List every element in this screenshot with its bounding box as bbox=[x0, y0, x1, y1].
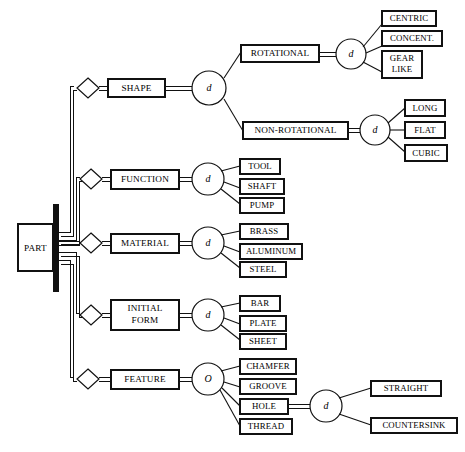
er-diagram-svg: PART SHAPE bbox=[0, 0, 465, 452]
specialization-initial-form: INITIAL FORM d bbox=[80, 299, 224, 331]
hole-label: HOLE bbox=[252, 401, 276, 411]
tool-label: TOOL bbox=[248, 161, 272, 171]
steel-label: STEEL bbox=[250, 264, 277, 274]
feature-specialization-diamond bbox=[77, 369, 99, 389]
link-non-rotational-circle bbox=[348, 128, 360, 132]
groove-label: GROOVE bbox=[249, 381, 286, 391]
thread-label: THREAD bbox=[248, 421, 284, 431]
shape-entity-label: SHAPE bbox=[121, 83, 151, 93]
rotational-label: ROTATIONAL bbox=[251, 48, 310, 58]
diagram-canvas: PART SHAPE bbox=[0, 0, 465, 452]
link-material-circle bbox=[179, 241, 192, 245]
link-diamond-feature-box bbox=[99, 377, 111, 381]
leaf-brass: BRASS bbox=[240, 224, 288, 239]
non-rotational-label: NON-ROTATIONAL bbox=[255, 125, 337, 135]
entity-part: PART bbox=[18, 224, 53, 271]
link-hole-circle bbox=[288, 404, 310, 408]
link-diamond-shape-box bbox=[99, 86, 108, 90]
link-hole-leaves bbox=[339, 388, 371, 425]
sheet-label: SHEET bbox=[249, 336, 277, 346]
function-entity-label: FUNCTION bbox=[121, 174, 169, 184]
specialization-function: FUNCTION d bbox=[80, 163, 224, 195]
leaf-sheet: SHEET bbox=[240, 334, 286, 349]
link-diamond-material-box bbox=[102, 241, 111, 245]
leaf-pump: PUMP bbox=[240, 198, 284, 213]
total-participation-bar bbox=[55, 204, 58, 292]
link-initial-form-circle bbox=[179, 313, 192, 317]
gear-like-label-line1: GEAR bbox=[390, 53, 414, 63]
link-shape-subclasses bbox=[224, 52, 243, 131]
link-initial-form-leaves bbox=[221, 303, 240, 340]
link-function-circle bbox=[179, 177, 192, 181]
concent-label: CONCENT. bbox=[390, 33, 434, 43]
leaf-concentric: CONCENT. bbox=[382, 31, 442, 46]
flat-label: FLAT bbox=[414, 125, 436, 135]
leaf-aluminum: ALUMINUM bbox=[240, 244, 302, 259]
part-entity-label: PART bbox=[24, 243, 47, 253]
function-specialization-diamond bbox=[80, 169, 102, 189]
material-entity-label: MATERIAL bbox=[121, 238, 169, 248]
initial-form-specialization-diamond bbox=[80, 305, 102, 325]
subclass-non-rotational: NON-ROTATIONAL d bbox=[243, 115, 390, 145]
link-diamond-function-box bbox=[102, 177, 111, 181]
initial-form-entity-label-line1: INITIAL bbox=[127, 303, 162, 313]
link-diamond-initial-form-box bbox=[102, 313, 111, 317]
pump-label: PUMP bbox=[250, 200, 274, 210]
leaf-flat: FLAT bbox=[405, 122, 445, 138]
leaf-countersink: COUNTERSINK bbox=[371, 418, 457, 433]
leaf-chamfer: CHAMFER bbox=[240, 359, 296, 374]
leaf-cubic: CUBIC bbox=[405, 145, 447, 161]
countersink-label: COUNTERSINK bbox=[382, 420, 446, 430]
cubic-label: CUBIC bbox=[412, 148, 439, 158]
leaf-gear-like: GEAR LIKE bbox=[382, 51, 422, 78]
material-specialization-diamond bbox=[80, 233, 102, 253]
leaf-steel: STEEL bbox=[240, 262, 286, 277]
chamfer-label: CHAMFER bbox=[246, 361, 289, 371]
feature-overlap-symbol: O bbox=[204, 373, 211, 384]
centric-label: CENTRIC bbox=[390, 13, 428, 23]
aluminum-label: ALUMINUM bbox=[246, 246, 296, 256]
leaf-thread: THREAD bbox=[240, 419, 292, 434]
leaf-straight: STRAIGHT bbox=[371, 381, 441, 396]
link-part-feature bbox=[58, 260, 77, 381]
link-shape-circle bbox=[165, 86, 192, 90]
hole-specialization: d bbox=[310, 390, 342, 422]
link-rotational-leaves bbox=[363, 24, 382, 72]
shape-specialization-diamond bbox=[77, 78, 99, 98]
leaf-shaft: SHAFT bbox=[240, 179, 284, 194]
gear-like-label-line2: LIKE bbox=[392, 64, 412, 74]
link-part-shape bbox=[58, 86, 77, 236]
leaf-centric: CENTRIC bbox=[382, 11, 436, 26]
long-label: LONG bbox=[413, 103, 438, 113]
leaf-long: LONG bbox=[405, 100, 445, 116]
link-rotational-circle bbox=[319, 52, 336, 56]
specialization-feature: FEATURE O bbox=[77, 363, 224, 395]
leaf-plate: PLATE bbox=[240, 316, 286, 331]
brass-label: BRASS bbox=[250, 226, 278, 236]
feature-entity-label: FEATURE bbox=[124, 374, 166, 384]
bar-label: BAR bbox=[251, 298, 269, 308]
leaf-hole: HOLE bbox=[240, 399, 288, 414]
straight-label: STRAIGHT bbox=[384, 383, 429, 393]
leaf-bar: BAR bbox=[240, 296, 280, 311]
subclass-rotational: ROTATIONAL d bbox=[241, 39, 366, 69]
link-non-rotational-leaves bbox=[388, 108, 405, 152]
initial-form-entity-label-line2: FORM bbox=[132, 315, 159, 325]
leaf-tool: TOOL bbox=[240, 159, 280, 174]
leaf-groove: GROOVE bbox=[240, 379, 296, 394]
plate-label: PLATE bbox=[250, 318, 277, 328]
link-function-leaves bbox=[221, 166, 240, 204]
shaft-label: SHAFT bbox=[248, 181, 277, 191]
link-feature-circle bbox=[179, 377, 192, 381]
link-material-leaves bbox=[221, 231, 240, 268]
specialization-shape: SHAPE d bbox=[77, 71, 226, 105]
specialization-material: MATERIAL d bbox=[80, 227, 224, 259]
